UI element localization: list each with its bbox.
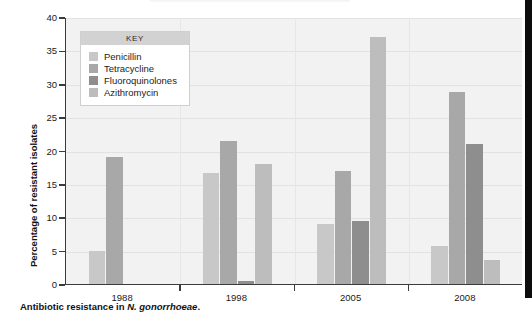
chart-panel: Percentage of resistant isolates 0510152… — [6, 2, 525, 296]
legend-label-tetracycline: Tetracycline — [104, 64, 154, 74]
x-axis-label-1998: 1998 — [206, 292, 266, 303]
y-tick-35 — [59, 51, 65, 53]
chart-legend: KEY PenicillinTetracyclineFluoroquinolon… — [80, 31, 190, 106]
bar-2005-tetracycline — [335, 171, 352, 284]
y-tick-20 — [59, 151, 65, 153]
y-tick-0 — [59, 284, 65, 286]
legend-label-fluoroquinolones: Fluoroquinolones — [104, 76, 177, 86]
x-axis-label-2005: 2005 — [321, 292, 381, 303]
y-axis-title: Percentage of resistant isolates — [28, 124, 39, 267]
y-tick-30 — [59, 84, 65, 86]
y-tick-label-30: 30 — [27, 80, 57, 90]
y-tick-25 — [59, 117, 65, 119]
y-tick-label-40: 40 — [27, 13, 57, 23]
bar-1998-penicillin — [203, 173, 220, 284]
y-tick-label-15: 15 — [27, 180, 57, 190]
bar-1998-fluoroquinolones — [238, 281, 255, 284]
legend-entry-tetracycline: Tetracycline — [89, 64, 181, 74]
bar-1998-azithromycin — [255, 164, 272, 284]
bar-2005-azithromycin — [370, 37, 387, 284]
y-tick-15 — [59, 184, 65, 186]
legend-entry-fluoroquinolones: Fluoroquinolones — [89, 76, 181, 86]
caption-suffix: . — [197, 301, 200, 312]
y-tick-label-35: 35 — [27, 46, 57, 56]
legend-swatch-tetracycline — [89, 64, 98, 73]
x-tick-1 — [179, 285, 180, 291]
x-tick-2 — [294, 285, 295, 291]
group-separator-2008 — [409, 18, 410, 284]
figure-caption: Antibiotic resistance in N. gonorrhoeae. — [20, 301, 200, 312]
figure-container: Percentage of resistant isolates 0510152… — [0, 0, 532, 323]
bar-2005-fluoroquinolones — [352, 221, 369, 284]
page-edge-strip — [525, 0, 532, 298]
y-tick-label-5: 5 — [27, 247, 57, 257]
bar-2008-penicillin — [431, 246, 448, 284]
bar-2008-tetracycline — [449, 92, 466, 284]
y-tick-label-20: 20 — [27, 147, 57, 157]
group-separator-2005 — [295, 18, 296, 284]
y-tick-label-0: 0 — [27, 280, 57, 290]
x-tick-3 — [408, 285, 409, 291]
bar-2008-fluoroquinolones — [466, 144, 483, 284]
x-axis-label-2008: 2008 — [435, 292, 495, 303]
caption-species: N. gonorrhoeae — [127, 301, 197, 312]
y-tick-5 — [59, 251, 65, 253]
legend-label-azithromycin: Azithromycin — [104, 88, 158, 98]
legend-swatch-fluoroquinolones — [89, 76, 98, 85]
legend-entries: PenicillinTetracyclineFluoroquinolonesAz… — [81, 45, 189, 105]
y-tick-40 — [59, 17, 65, 19]
legend-label-penicillin: Penicillin — [104, 52, 142, 62]
bar-1988-penicillin — [89, 251, 106, 284]
bar-1998-tetracycline — [220, 141, 237, 284]
legend-swatch-azithromycin — [89, 88, 98, 97]
y-tick-label-10: 10 — [27, 213, 57, 223]
bar-2005-penicillin — [317, 224, 334, 284]
bar-2008-azithromycin — [484, 260, 501, 284]
legend-swatch-penicillin — [89, 52, 98, 61]
bar-1988-tetracycline — [106, 157, 123, 284]
y-tick-label-25: 25 — [27, 113, 57, 123]
legend-entry-azithromycin: Azithromycin — [89, 88, 181, 98]
caption-prefix: Antibiotic resistance in — [20, 301, 127, 312]
y-tick-10 — [59, 217, 65, 219]
legend-title: KEY — [81, 32, 189, 45]
legend-entry-penicillin: Penicillin — [89, 52, 181, 62]
